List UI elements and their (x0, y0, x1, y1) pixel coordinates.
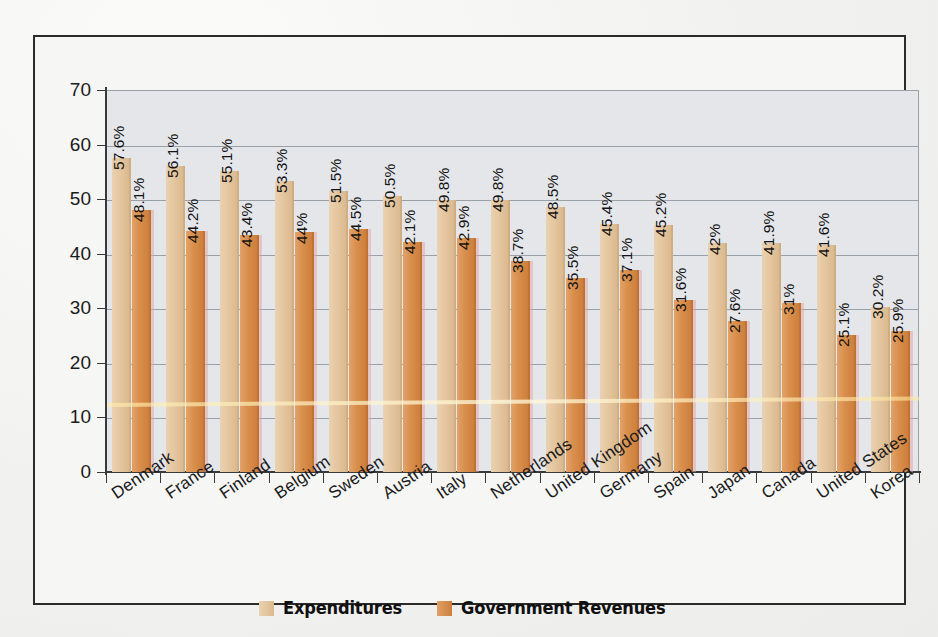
bar-fill (329, 191, 348, 472)
bar-fill (186, 231, 205, 472)
bar-value-label: 51.5% (327, 159, 345, 203)
bar-value-label: 48.1% (130, 177, 148, 221)
y-tick-mark-60 (97, 145, 106, 146)
bar-fill (349, 229, 368, 472)
bar-value-label: 41.9% (760, 211, 778, 255)
bar[interactable] (112, 158, 131, 472)
bar-value-label: 49.8% (489, 168, 507, 212)
bar-value-label: 25.9% (889, 298, 907, 342)
bar[interactable] (837, 335, 856, 472)
bar-value-label: 42% (706, 223, 724, 254)
bar-group: 41.6%25.1% (817, 90, 856, 472)
bar-print-shadow (585, 278, 588, 472)
bar[interactable] (240, 235, 259, 472)
bar[interactable] (511, 261, 530, 472)
bar-group: 49.8%38.7% (491, 90, 530, 472)
legend-item-government-revenues[interactable]: Government Revenues (437, 598, 681, 618)
bar[interactable] (457, 238, 476, 472)
bar[interactable] (728, 321, 747, 472)
expenditures-swatch-icon (259, 601, 274, 616)
bar[interactable] (403, 242, 422, 472)
bar-value-label: 45.4% (598, 192, 616, 236)
bar-group: 42%27.6% (708, 90, 747, 472)
bar-group: 50.5%42.1% (383, 90, 422, 472)
y-tick-mark-40 (97, 254, 106, 255)
bar-value-label: 38.7% (509, 228, 527, 272)
bar-fill (437, 200, 456, 472)
legend-item-expenditures[interactable]: Expenditures (259, 598, 411, 618)
bar[interactable] (295, 232, 314, 472)
x-tick-mark (919, 473, 920, 483)
bar[interactable] (383, 196, 402, 472)
bar-print-shadow (314, 232, 317, 472)
bar-fill (295, 232, 314, 472)
bar-value-label: 25.1% (835, 303, 853, 347)
bar[interactable] (782, 303, 801, 472)
bar[interactable] (329, 191, 348, 472)
bar-group: 45.2%31.6% (654, 90, 693, 472)
bar-fill (491, 200, 510, 472)
bar-value-label: 42.1% (401, 210, 419, 254)
bar-value-label: 43.4% (238, 203, 256, 247)
bar-group: 41.9%31% (762, 90, 801, 472)
page-bleed-through (335, 562, 340, 579)
bar[interactable] (491, 200, 510, 472)
bar-fill (762, 243, 781, 472)
bar-group: 51.5%44.5% (329, 90, 368, 472)
bar[interactable] (132, 210, 151, 472)
bar[interactable] (166, 166, 185, 472)
bar[interactable] (437, 200, 456, 472)
bar[interactable] (546, 207, 565, 472)
y-tick-mark-10 (97, 417, 106, 418)
bar-group: 56.1%44.2% (166, 90, 205, 472)
bar[interactable] (654, 225, 673, 472)
bar-group: 45.4%37.1% (600, 90, 639, 472)
y-tick-mark-30 (97, 308, 106, 309)
bar-print-shadow (801, 303, 804, 472)
bar-fill (708, 243, 727, 472)
bar-value-label: 57.6% (110, 125, 128, 169)
bar-value-label: 56.1% (164, 133, 182, 177)
bar-fill (654, 225, 673, 472)
bar[interactable] (600, 224, 619, 472)
x-tick-mark (756, 473, 757, 483)
bar[interactable] (708, 243, 727, 472)
bar-value-label: 31% (780, 284, 798, 315)
bar-value-label: 53.3% (273, 149, 291, 193)
y-tick-mark-20 (97, 363, 106, 364)
bar-fill (546, 207, 565, 472)
bar-group: 57.6%48.1% (112, 90, 151, 472)
bar-fill (403, 242, 422, 472)
bar-print-shadow (530, 261, 533, 472)
bar-value-label: 31.6% (672, 267, 690, 311)
bar-fill (817, 245, 836, 472)
legend-label-expenditures: Expenditures (283, 598, 402, 618)
bar-group: 30.2%25.9% (871, 90, 910, 472)
bar[interactable] (275, 181, 294, 472)
bar-fill (728, 321, 747, 472)
bar[interactable] (349, 229, 368, 472)
bar-group: 48.5%35.5% (546, 90, 585, 472)
y-tick-label-50: 50 (35, 189, 91, 208)
bar[interactable] (186, 231, 205, 472)
y-tick-label-70: 70 (35, 80, 91, 99)
chart-frame: 010203040506070 57.6%48.1%56.1%44.2%55.1… (33, 35, 906, 605)
bar[interactable] (762, 243, 781, 472)
bar-fill (457, 238, 476, 472)
y-tick-label-10: 10 (35, 407, 91, 426)
y-tick-label-60: 60 (35, 135, 91, 154)
bar[interactable] (817, 245, 836, 472)
legend-label-government-revenues: Government Revenues (461, 598, 665, 618)
bar-fill (275, 181, 294, 472)
bar[interactable] (220, 171, 239, 472)
bar[interactable] (674, 300, 693, 472)
bar-group: 53.3%44% (275, 90, 314, 472)
bar-value-label: 35.5% (564, 246, 582, 290)
bar-value-label: 42.9% (455, 205, 473, 249)
bar-value-label: 44% (293, 213, 311, 244)
bar-fill (112, 158, 131, 472)
bar-group: 49.8%42.9% (437, 90, 476, 472)
bar-fill (837, 335, 856, 472)
bar-print-shadow (368, 229, 371, 472)
bar-value-label: 27.6% (726, 289, 744, 333)
